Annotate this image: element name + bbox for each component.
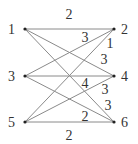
edge-weight-label: 3	[102, 82, 109, 97]
edge-weight-label: 2	[66, 128, 73, 143]
node-6	[112, 120, 115, 123]
node-label-6: 6	[121, 115, 128, 130]
node-1	[23, 27, 26, 30]
edges-group	[25, 29, 114, 122]
node-2	[112, 27, 115, 30]
node-label-2: 2	[121, 22, 128, 37]
edge-weight-label: 3	[82, 30, 89, 45]
node-label-5: 5	[8, 115, 15, 130]
node-4	[112, 74, 115, 77]
edge-weight-label: 2	[66, 7, 73, 22]
edge-weight-label: 1	[107, 36, 114, 51]
bipartite-graph: 123456231343322	[0, 0, 138, 144]
node-3	[23, 74, 26, 77]
node-label-3: 3	[8, 69, 15, 84]
node-5	[23, 120, 26, 123]
edge-weight-label: 3	[101, 52, 108, 67]
edge-weight-label: 2	[82, 109, 89, 124]
edge-weight-label: 4	[82, 76, 89, 91]
edge-weight-label: 3	[105, 98, 112, 113]
node-label-1: 1	[8, 22, 15, 37]
node-label-4: 4	[121, 69, 128, 84]
